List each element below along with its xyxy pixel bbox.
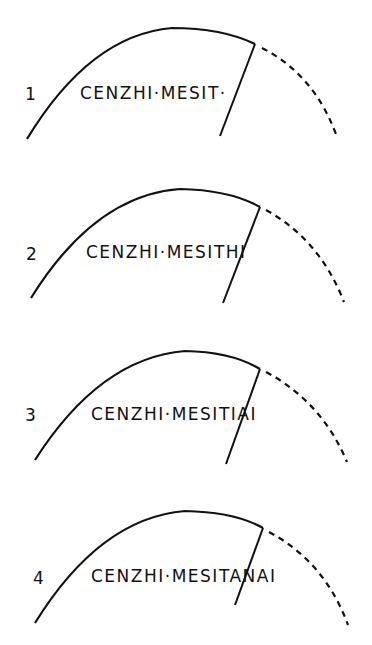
variant-number: 1 (25, 86, 36, 103)
reconstructed-arc (266, 372, 347, 462)
variant-panel-3: 3 CENZHI·MESITIAI (0, 320, 372, 480)
inscription-text: CENZHI·MESITANAI (91, 568, 276, 585)
variant-number: 4 (33, 570, 44, 587)
inscription-text: CENZHI·MESITHI (86, 244, 247, 261)
fragment-outline (0, 0, 372, 160)
fragment-outline (0, 160, 372, 320)
inscription-text: CENZHI·MESITIAI (91, 406, 257, 423)
variant-number: 3 (25, 407, 36, 424)
reconstructed-arc (266, 210, 344, 302)
variant-panel-2: 2 CENZHI·MESITHI (0, 160, 372, 320)
variant-panel-4: 4 CENZHI·MESITANAI (0, 480, 372, 640)
variant-number: 2 (26, 246, 37, 263)
reconstructed-arc (262, 48, 337, 137)
fragment-outline (0, 320, 372, 480)
inscription-text: CENZHI·MESIT· (80, 85, 227, 102)
fragment-outline (0, 480, 372, 645)
variant-panel-1: 1 CENZHI·MESIT· (0, 0, 372, 160)
reconstructed-arc (269, 532, 348, 625)
